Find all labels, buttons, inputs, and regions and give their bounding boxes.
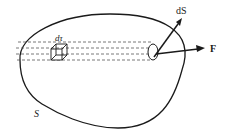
label-d-tau: dτ (55, 33, 64, 43)
label-f: F (210, 43, 216, 54)
closed-surface-s (20, 14, 185, 128)
label-ds: dS (176, 5, 187, 16)
flux-tube-lines (16, 42, 152, 60)
volume-element-cube-icon (51, 44, 67, 60)
label-s: S (34, 108, 39, 119)
divergence-diagram: dτ dS F S (0, 0, 226, 136)
force-vector-arrow-icon (156, 45, 205, 54)
surface-element-patch (148, 44, 158, 60)
